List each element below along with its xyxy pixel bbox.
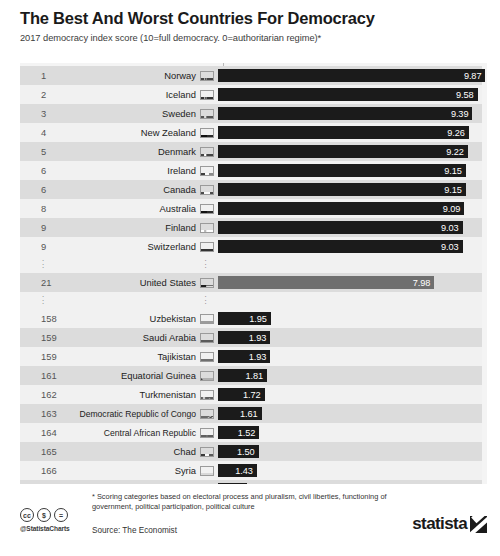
- country-label: Australia: [60, 203, 200, 214]
- rank-label: 164: [20, 427, 60, 438]
- value-label: 1.61: [240, 409, 261, 419]
- table-row[interactable]: 2Iceland9.58: [20, 85, 482, 104]
- value-bar: 1.43: [218, 464, 257, 477]
- statista-handle: @StatistaCharts: [20, 525, 70, 532]
- country-label: Syria: [60, 465, 200, 476]
- value-bar: 1.50: [218, 445, 259, 458]
- uzbekistan-flag: [200, 314, 214, 324]
- country-label: Central African Republic: [60, 428, 200, 438]
- value-bar: 1.08: [218, 483, 247, 484]
- syria-flag: [200, 466, 214, 476]
- equatorial-guinea-flag: [200, 371, 214, 381]
- ellipsis-row: ······: [20, 256, 482, 273]
- country-label: Norway: [60, 70, 200, 81]
- value-bar: 9.03: [218, 240, 463, 253]
- table-row[interactable]: 6Canada9.15: [20, 180, 482, 199]
- value-bar: 9.15: [218, 183, 466, 196]
- creative-commons-badges: cc $ =: [20, 508, 68, 522]
- rank-label: 159: [20, 351, 60, 362]
- tajikistan-flag: [200, 352, 214, 362]
- value-bar: 1.95: [218, 312, 271, 325]
- bar-track: 9.22: [218, 142, 482, 161]
- denmark-flag: [200, 147, 214, 157]
- rank-label: 158: [20, 313, 60, 324]
- value-label: 1.93: [249, 352, 270, 362]
- table-row[interactable]: 165Chad1.50: [20, 442, 482, 461]
- table-row[interactable]: 167North Korea1.08: [20, 480, 482, 484]
- rank-label: 4: [20, 127, 60, 138]
- table-row[interactable]: 159Tajikistan1.93: [20, 347, 482, 366]
- value-bar: 9.15: [218, 164, 466, 177]
- rank-label: 2: [20, 89, 60, 100]
- value-label: 9.22: [446, 147, 467, 157]
- value-bar: 9.03: [218, 221, 463, 234]
- bar-track: 1.93: [218, 328, 482, 347]
- bar-track: 1.50: [218, 442, 482, 461]
- table-row[interactable]: 164Central African Republic1.52: [20, 423, 482, 442]
- bar-track: 1.72: [218, 385, 482, 404]
- bar-track: 1.81: [218, 366, 482, 385]
- table-row[interactable]: 9Finland9.03: [20, 218, 482, 237]
- chad-flag: [200, 447, 214, 457]
- country-label: Ireland: [60, 165, 200, 176]
- country-label: Turkmenistan: [60, 389, 200, 400]
- rank-label: 166: [20, 465, 60, 476]
- table-row[interactable]: 1Norway9.87: [20, 66, 482, 85]
- ireland-flag: [200, 166, 214, 176]
- table-row[interactable]: 8Australia9.09: [20, 199, 482, 218]
- bar-track: 9.03: [218, 218, 482, 237]
- infographic-page: The Best And Worst Countries For Democra…: [0, 0, 500, 556]
- table-row[interactable]: 166Syria1.43: [20, 461, 482, 480]
- footer: * Scoring categories based on electoral …: [20, 492, 487, 540]
- table-row[interactable]: 4New Zealand9.26: [20, 123, 482, 142]
- country-label: Tajikistan: [60, 351, 200, 362]
- new-zealand-flag: [200, 128, 214, 138]
- bar-track: 1.08: [218, 480, 482, 484]
- table-row[interactable]: 21United States7.98: [20, 273, 482, 292]
- country-label: Saudi Arabia: [60, 332, 200, 343]
- rank-label: 9: [20, 222, 60, 233]
- rank-label: 161: [20, 370, 60, 381]
- table-row[interactable]: 3Sweden9.39: [20, 104, 482, 123]
- ellipsis-row: ······: [20, 292, 482, 309]
- country-label: Iceland: [60, 89, 200, 100]
- bar-track: 1.52: [218, 423, 482, 442]
- value-bar: 1.93: [218, 350, 270, 363]
- table-row[interactable]: 9Switzerland9.03: [20, 237, 482, 256]
- country-label: Denmark: [60, 146, 200, 157]
- table-row[interactable]: 161Equatorial Guinea1.81: [20, 366, 482, 385]
- bar-track: 1.93: [218, 347, 482, 366]
- country-label: Switzerland: [60, 241, 200, 252]
- table-row[interactable]: 158Uzbekistan1.95: [20, 309, 482, 328]
- country-label: Democratic Republic of Congo: [60, 409, 200, 419]
- finland-flag: [200, 223, 214, 233]
- sweden-flag: [200, 109, 214, 119]
- cc-by-icon: $: [37, 508, 51, 522]
- value-label: 7.98: [413, 278, 434, 288]
- value-bar: 9.58: [218, 88, 478, 101]
- bar-track: 9.58: [218, 85, 482, 104]
- rank-label: 9: [20, 241, 60, 252]
- value-bar: 1.61: [218, 407, 262, 420]
- table-row[interactable]: 5Denmark9.22: [20, 142, 482, 161]
- australia-flag: [200, 204, 214, 214]
- table-row[interactable]: 162Turkmenistan1.72: [20, 385, 482, 404]
- united-states-flag: [200, 278, 214, 288]
- bar-track: 1.43: [218, 461, 482, 480]
- value-label: 1.43: [235, 466, 256, 476]
- bar-track: 9.39: [218, 104, 482, 123]
- table-row[interactable]: 159Saudi Arabia1.93: [20, 328, 482, 347]
- value-label: 9.03: [441, 242, 462, 252]
- table-row[interactable]: 6Ireland9.15: [20, 161, 482, 180]
- country-ellipsis: ···: [60, 295, 218, 306]
- country-label: Finland: [60, 222, 200, 233]
- bar-track: 1.95: [218, 309, 482, 328]
- canada-flag: [200, 185, 214, 195]
- rank-ellipsis: ···: [20, 259, 60, 270]
- value-bar: 1.72: [218, 388, 265, 401]
- page-subtitle: 2017 democracy index score (10=full demo…: [20, 32, 487, 44]
- country-label: Chad: [60, 446, 200, 457]
- value-label: 1.52: [238, 428, 259, 438]
- value-label: 9.58: [456, 90, 477, 100]
- table-row[interactable]: 163Democratic Republic of Congo1.61: [20, 404, 482, 423]
